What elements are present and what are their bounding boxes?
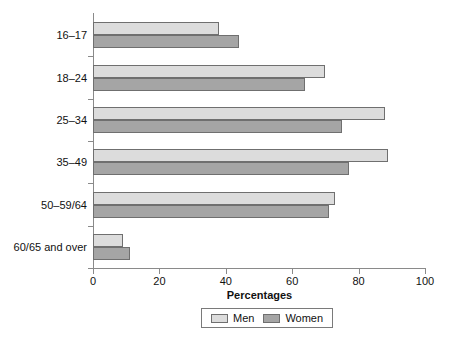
category-label: 60/65 and over [7, 241, 93, 254]
bar-men [93, 149, 388, 162]
legend-swatch-men-icon [211, 314, 228, 323]
category-label: 35–49 [7, 156, 93, 169]
bar-men [93, 234, 123, 247]
category-label: 16–17 [7, 29, 93, 42]
bar-women [93, 205, 329, 218]
x-axis-tick-label: 60 [272, 275, 312, 288]
bar-women [93, 247, 130, 260]
bar-women [93, 78, 305, 91]
category-label: 50–59/64 [7, 199, 93, 212]
x-axis-tick-label: 40 [206, 275, 246, 288]
x-axis-tick [226, 269, 227, 274]
bar-chart: 020406080100 16–1718–2425–3435–4950–59/6… [0, 0, 470, 343]
x-axis-tick [93, 269, 94, 274]
bar-men [93, 192, 335, 205]
category-label: 18–24 [7, 72, 93, 85]
legend-item-women[interactable]: Women [263, 312, 323, 324]
legend-swatch-women-icon [263, 314, 280, 323]
bar-men [93, 65, 325, 78]
x-axis-tick-label: 80 [339, 275, 379, 288]
x-axis-tick [159, 269, 160, 274]
bar-men [93, 107, 385, 120]
x-axis-tick [292, 269, 293, 274]
x-axis-tick-label: 0 [73, 275, 113, 288]
category-label: 25–34 [7, 114, 93, 127]
chart-legend: Men Women [201, 308, 333, 328]
category-labels: 16–1718–2425–3435–4950–59/6460/65 and ov… [0, 0, 93, 268]
legend-label-men: Men [233, 312, 254, 324]
bar-women [93, 35, 239, 48]
x-axis-tick [359, 269, 360, 274]
plot-area [93, 14, 425, 268]
x-axis-tick-label: 100 [405, 275, 445, 288]
x-axis-tick-label: 20 [139, 275, 179, 288]
x-axis-line [93, 268, 426, 269]
x-axis-title: Percentages [93, 289, 426, 301]
legend-item-men[interactable]: Men [211, 312, 254, 324]
bar-men [93, 22, 219, 35]
bar-women [93, 162, 349, 175]
legend-label-women: Women [285, 312, 323, 324]
x-axis-tick [425, 269, 426, 274]
bar-women [93, 120, 342, 133]
